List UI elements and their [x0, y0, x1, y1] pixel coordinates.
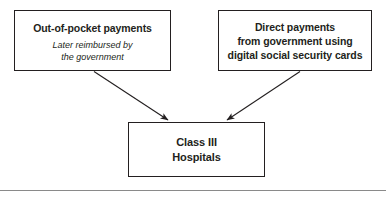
arrow-direct-payments-to-hospitals — [227, 72, 300, 121]
payment-flow-diagram: Out-of-pocket payments Later reimbursed … — [0, 0, 386, 198]
node-class-iii-hospitals: Class III Hospitals — [128, 122, 265, 177]
node-class-iii-hospitals-title: Class III Hospitals — [172, 135, 221, 165]
node-out-of-pocket-payments: Out-of-pocket payments Later reimbursed … — [14, 10, 171, 71]
arrow-out-of-pocket-to-hospitals — [94, 72, 168, 121]
node-direct-payments: Direct payments from government using di… — [218, 10, 372, 71]
node-out-of-pocket-subtitle: Later reimbursed by the government — [52, 40, 132, 63]
node-out-of-pocket-title: Out-of-pocket payments — [33, 22, 152, 35]
footer-divider — [0, 190, 386, 191]
node-direct-payments-title: Direct payments from government using di… — [228, 20, 363, 62]
